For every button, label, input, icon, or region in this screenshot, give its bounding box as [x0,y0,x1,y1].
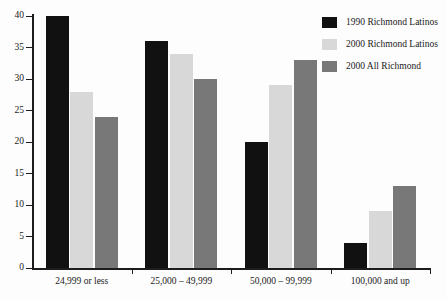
legend-item-label: 2000 Richmond Latinos [346,40,438,50]
legend-swatch [322,61,337,72]
legend-item: 1990 Richmond Latinos [322,13,438,32]
legend-item: 2000 All Richmond [322,57,438,76]
x-axis-tick [132,268,133,274]
bar [369,211,392,268]
bar [170,54,193,268]
bar [393,186,416,268]
y-axis-tick-label: 40 [0,11,24,21]
y-axis-tick-label: 30 [0,74,24,84]
x-axis-tick-label: 100,000 and up [320,277,440,287]
bar-chart: 0510152025303540 24,999 or less25,000 – … [0,0,447,299]
legend-item-label: 2000 All Richmond [346,62,421,72]
bar [95,117,118,268]
x-axis-tick [331,268,332,274]
bar [269,85,292,268]
y-axis-tick-label: 25 [0,106,24,116]
bar [46,16,69,268]
bar [245,142,268,268]
bar [344,243,367,268]
y-axis-tick-label: 10 [0,200,24,210]
y-axis-tick-label: 5 [0,232,24,242]
legend-swatch [322,39,337,50]
x-axis-tick [231,268,232,274]
bar [194,79,217,268]
y-axis-tick-label: 35 [0,43,24,53]
y-axis-tick-label: 0 [0,263,24,273]
y-axis-tick-label: 20 [0,137,24,147]
bar [70,92,93,268]
legend-item-label: 1990 Richmond Latinos [346,18,438,28]
x-axis-tick [430,268,431,274]
bar [294,60,317,268]
chart-legend: 1990 Richmond Latinos2000 Richmond Latin… [322,13,438,79]
bar [145,41,168,268]
legend-swatch [322,17,337,28]
legend-item: 2000 Richmond Latinos [322,35,438,54]
y-axis-tick-label: 15 [0,169,24,179]
